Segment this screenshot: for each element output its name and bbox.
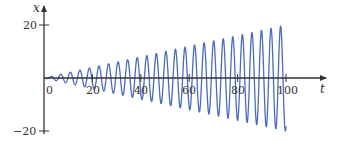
x-tick-label-20: 20	[86, 84, 100, 97]
x-tick-label-80: 80	[231, 84, 245, 97]
resonance-chart: 0 20 40 60 80 100 20 −20 x t	[0, 0, 346, 141]
x-tick-label-60: 60	[182, 84, 196, 97]
x-axis-label: t	[320, 82, 325, 96]
y-axis-label: x	[33, 1, 40, 15]
x-tick-label-0: 0	[46, 84, 53, 97]
x-tick-label-40: 40	[134, 84, 148, 97]
y-tick-label-20: 20	[23, 19, 37, 32]
x-tick-label-100: 100	[277, 84, 298, 97]
y-tick-label-neg20: −20	[13, 125, 36, 138]
